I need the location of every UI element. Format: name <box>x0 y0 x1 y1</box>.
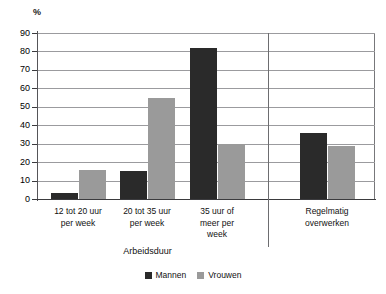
y-axis-tick <box>32 144 37 145</box>
y-axis-tick <box>32 181 37 182</box>
y-axis-tick-label: 40 <box>4 121 30 130</box>
legend-item-vrouwen: Vrouwen <box>197 271 241 280</box>
y-axis-tick-label: 0 <box>4 195 30 204</box>
x-axis-group-title: Arbeidsduur <box>88 246 208 256</box>
y-axis-tick-labels: 0102030405060708090 <box>0 0 30 294</box>
y-axis-tick-label: 80 <box>4 47 30 56</box>
bar-vrouwen-0 <box>79 170 106 200</box>
legend-swatch-icon-vrouwen <box>197 272 204 279</box>
y-axis-tick <box>32 70 37 71</box>
x-axis-line <box>32 199 376 200</box>
bar-mannen-1 <box>120 171 147 199</box>
y-axis-tick <box>32 33 37 34</box>
bar-chart: % 0102030405060708090 12 tot 20 uurper w… <box>0 0 386 294</box>
y-axis-tick-label: 70 <box>4 65 30 74</box>
y-axis-tick-label: 20 <box>4 158 30 167</box>
legend-label-vrouwen: Vrouwen <box>208 271 241 280</box>
y-axis-tick <box>32 88 37 89</box>
plot-area <box>37 33 375 199</box>
y-axis-tick-label: 30 <box>4 139 30 148</box>
bar-mannen-3 <box>300 133 327 199</box>
y-axis-tick-label: 90 <box>4 29 30 38</box>
legend-item-mannen: Mannen <box>145 271 187 280</box>
bar-vrouwen-2 <box>218 144 245 199</box>
y-axis-tick <box>32 125 37 126</box>
y-axis-tick <box>32 162 37 163</box>
y-axis-tick <box>32 107 37 108</box>
x-axis-category-label: 35 uur ofmeer perweek <box>178 206 256 241</box>
y-axis-tick <box>32 51 37 52</box>
x-axis-category-label: Regelmatigoverwerken <box>288 206 366 229</box>
bar-mannen-2 <box>190 48 217 199</box>
bar-vrouwen-1 <box>148 98 175 199</box>
y-axis-unit-label: % <box>33 7 41 17</box>
x-axis-category-label: 12 tot 20 uurper week <box>39 206 117 229</box>
y-axis-tick <box>32 199 37 200</box>
legend-label-mannen: Mannen <box>156 271 187 280</box>
bar-vrouwen-3 <box>328 146 355 199</box>
chart-legend: Mannen Vrouwen <box>0 271 386 280</box>
bars-layer <box>37 33 375 199</box>
y-axis-tick-label: 60 <box>4 84 30 93</box>
legend-swatch-icon-mannen <box>145 272 152 279</box>
y-axis-tick-label: 10 <box>4 176 30 185</box>
y-axis-tick-label: 50 <box>4 102 30 111</box>
x-axis-category-label: 20 tot 35 uurper week <box>108 206 186 229</box>
category-group-divider <box>268 33 269 247</box>
y-axis-line <box>37 31 38 201</box>
